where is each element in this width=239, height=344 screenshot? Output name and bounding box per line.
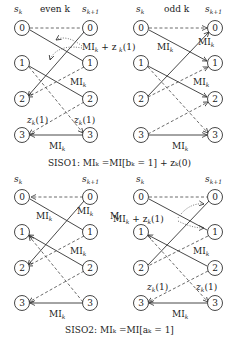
- label-mi-bottom: MIk: [49, 309, 66, 320]
- header-sk1: sk+1: [82, 174, 99, 185]
- dotted-arrow-2: [178, 221, 204, 228]
- svg-text:0: 0: [87, 23, 93, 33]
- node-sk1-2: 2: [83, 261, 98, 276]
- header-sk: sk: [136, 4, 145, 15]
- caption-siso2: SISO2: MIₖ =MI[aₖ = 1]: [65, 325, 174, 335]
- node-sk-1: 1: [15, 225, 30, 240]
- svg-text:1: 1: [212, 58, 218, 68]
- node-sk1-0: 0: [208, 21, 223, 36]
- svg-text:0: 0: [19, 23, 25, 33]
- edge-0-1: [30, 30, 83, 61]
- label-mi-bottom: MIk: [49, 141, 66, 152]
- svg-text:3: 3: [212, 130, 218, 140]
- svg-text:1: 1: [212, 227, 218, 237]
- header-sk1: sk+1: [205, 4, 222, 15]
- svg-text:0: 0: [212, 23, 218, 33]
- label-mi-bottom: MIk: [172, 141, 189, 152]
- node-sk-3: 3: [134, 296, 149, 311]
- header-parity: even k: [40, 4, 70, 14]
- panel-siso2-right: sk sk+1 MIk + zk(1) MIk zk(1) zk(1) MIk …: [113, 174, 223, 320]
- node-sk-0: 0: [134, 190, 149, 205]
- header-sk1: sk+1: [205, 174, 222, 185]
- node-sk1-0: 0: [83, 21, 98, 36]
- label-mi-2: MIk: [77, 206, 94, 217]
- label-z-cont: k(1): [119, 42, 135, 53]
- node-sk1-0: 0: [83, 190, 98, 205]
- svg-text:1: 1: [19, 58, 25, 68]
- svg-text:3: 3: [19, 130, 25, 140]
- edge-3-2: [148, 102, 208, 134]
- svg-text:0: 0: [87, 192, 93, 202]
- header-sk: sk: [14, 174, 23, 185]
- header-parity: odd k: [164, 4, 190, 14]
- node-sk-2: 2: [134, 261, 149, 276]
- label-mi-1: MIk: [36, 211, 53, 222]
- node-sk-0: 0: [15, 190, 30, 205]
- header-sk: sk: [136, 174, 145, 185]
- svg-text:1: 1: [138, 227, 144, 237]
- node-sk1-1: 1: [83, 56, 98, 71]
- node-sk-3: 3: [134, 128, 149, 143]
- svg-text:2: 2: [212, 263, 218, 273]
- node-sk-1: 1: [134, 56, 149, 71]
- node-sk1-3: 3: [208, 296, 223, 311]
- node-sk-3: 3: [15, 296, 30, 311]
- svg-text:0: 0: [138, 23, 144, 33]
- node-sk1-2: 2: [83, 92, 98, 107]
- svg-text:3: 3: [138, 298, 144, 308]
- svg-text:3: 3: [138, 130, 144, 140]
- label-mi-2: MIk: [198, 37, 215, 48]
- svg-text:1: 1: [19, 227, 25, 237]
- label-z-right: zk(1): [73, 115, 95, 126]
- svg-text:3: 3: [19, 298, 25, 308]
- node-sk-2: 2: [15, 92, 30, 107]
- svg-text:2: 2: [19, 263, 25, 273]
- node-sk1-3: 3: [83, 296, 98, 311]
- svg-text:1: 1: [138, 58, 144, 68]
- node-sk1-1: 1: [83, 225, 98, 240]
- label-mi-1: MIk: [157, 42, 174, 53]
- node-sk1-1: 1: [208, 56, 223, 71]
- label-mi-3: MIk: [70, 246, 87, 257]
- node-sk-1: 1: [15, 56, 30, 71]
- node-sk1-3: 3: [208, 128, 223, 143]
- node-sk1-2: 2: [208, 92, 223, 107]
- label-mi-bottom: MIk: [172, 309, 189, 320]
- panel-siso1-odd: sk odd k sk+1 k(1) MIk MIk MIk MIk 0 1 2…: [119, 4, 223, 152]
- label-mi: MIk: [193, 246, 210, 257]
- trellis-diagram: sk even k sk+1 MIk + z MIk zk(1) zk(1) M…: [0, 0, 239, 344]
- svg-text:1: 1: [87, 227, 93, 237]
- label-mi: MIk: [70, 77, 87, 88]
- label-z-right: zk(1): [195, 282, 217, 293]
- caption-siso1: SISO1: MIₖ =MI[bₖ = 1] + zₖ(0): [48, 158, 191, 168]
- node-sk-1: 1: [134, 225, 149, 240]
- label-mi-plus-z: MIk + zk(1): [113, 214, 164, 225]
- node-sk1-1: 1: [208, 225, 223, 240]
- panel-siso1-even: sk even k sk+1 MIk + z MIk zk(1) zk(1) M…: [14, 4, 117, 152]
- node-sk-3: 3: [15, 128, 30, 143]
- edge-2-3: [29, 271, 84, 302]
- node-sk-0: 0: [15, 21, 30, 36]
- label-mi-3: MIk: [193, 77, 210, 88]
- svg-text:3: 3: [87, 298, 93, 308]
- svg-text:1: 1: [87, 58, 93, 68]
- svg-text:2: 2: [87, 263, 93, 273]
- svg-text:3: 3: [212, 298, 218, 308]
- label-z-left: zk(1): [146, 282, 168, 293]
- svg-text:0: 0: [138, 192, 144, 202]
- svg-text:3: 3: [87, 130, 93, 140]
- panel-siso2-left: sk sk+1 MIk MIk MIk MIk M 0 1 2 3 0 1 2 …: [14, 174, 119, 320]
- header-sk: sk: [14, 4, 23, 15]
- svg-text:0: 0: [212, 192, 218, 202]
- node-sk-2: 2: [134, 92, 149, 107]
- svg-text:2: 2: [138, 263, 144, 273]
- svg-text:2: 2: [138, 94, 144, 104]
- header-sk1: sk+1: [82, 4, 99, 15]
- node-sk-0: 0: [134, 21, 149, 36]
- node-sk1-2: 2: [208, 261, 223, 276]
- node-sk-2: 2: [15, 261, 30, 276]
- label-z-left: zk(1): [26, 115, 48, 126]
- svg-text:2: 2: [212, 94, 218, 104]
- node-sk1-3: 3: [83, 128, 98, 143]
- node-sk1-0: 0: [208, 190, 223, 205]
